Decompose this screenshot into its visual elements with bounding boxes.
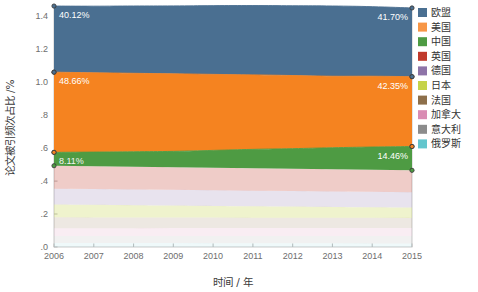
data-point-marker (410, 144, 414, 148)
data-point-marker (52, 70, 56, 74)
area-band-美国 (54, 72, 412, 152)
x-axis-title: 时间 / 年 (213, 276, 253, 288)
area-band-加拿大 (54, 228, 412, 236)
data-point-marker (52, 150, 56, 154)
data-point-marker (410, 168, 414, 172)
legend-label-意大利: 意大利 (431, 123, 461, 135)
legend-label-欧盟: 欧盟 (431, 7, 451, 18)
legend-label-英国: 英国 (431, 50, 451, 62)
data-label: 14.46% (377, 151, 408, 161)
area-band-英国 (54, 166, 412, 193)
area-band-俄罗斯 (54, 243, 412, 247)
x-tick-label: 2008 (124, 251, 144, 261)
y-tick-label: 1.2 (35, 44, 48, 54)
area-band-意大利 (54, 236, 412, 244)
legend-label-中国: 中国 (431, 35, 451, 47)
x-tick-label: 2015 (402, 251, 422, 261)
area-band-法国 (54, 217, 412, 228)
y-tick-label: 1.0 (35, 77, 48, 87)
x-tick-label: 2011 (243, 251, 262, 261)
y-tick-label: 1.4 (35, 11, 48, 21)
legend-swatch-日本 (418, 81, 427, 90)
legend-swatch-意大利 (418, 125, 427, 134)
legend-swatch-英国 (418, 52, 427, 61)
data-label: 8.11% (59, 156, 84, 166)
area-band-欧盟 (54, 6, 412, 77)
y-tick-label: .2 (40, 209, 48, 219)
data-point-marker (410, 6, 414, 10)
stacked-area-chart: .0.2.4.6.81.01.21.4 20062007200820092010… (0, 0, 478, 292)
legend-label-俄罗斯: 俄罗斯 (431, 137, 461, 149)
data-label: 41.70% (377, 12, 408, 22)
data-label: 42.35% (377, 81, 408, 91)
y-tick-label: .6 (40, 143, 48, 153)
legend-label-美国: 美国 (431, 21, 451, 33)
legend-label-加拿大: 加拿大 (431, 108, 461, 120)
legend-swatch-法国 (418, 96, 427, 105)
area-series-group (54, 6, 412, 247)
x-tick-label: 2009 (163, 251, 183, 261)
data-label: 40.12% (59, 10, 90, 20)
legend-swatch-欧盟 (418, 8, 427, 17)
y-axis-title: 论文被引频次占比 /% (4, 80, 16, 177)
x-tick-label: 2013 (322, 251, 342, 261)
y-tick-label: .8 (40, 110, 48, 120)
x-tick-label: 2007 (84, 251, 104, 261)
data-point-marker (52, 164, 56, 168)
x-tick-label: 2006 (44, 251, 64, 261)
data-label: 48.66% (59, 76, 90, 86)
data-point-marker (410, 75, 414, 79)
legend-swatch-美国 (418, 23, 427, 32)
legend-swatch-中国 (418, 37, 427, 46)
x-tick-label: 2010 (203, 251, 223, 261)
legend-label-法国: 法国 (431, 94, 451, 106)
x-tick-label: 2012 (283, 251, 303, 261)
legend-swatch-加拿大 (418, 110, 427, 119)
x-tick-label: 2014 (362, 251, 382, 261)
legend-label-日本: 日本 (431, 79, 451, 91)
legend-swatch-俄罗斯 (418, 139, 427, 148)
legend-label-德国: 德国 (431, 64, 451, 76)
data-point-marker (52, 4, 56, 8)
y-tick-label: .4 (40, 176, 48, 186)
legend-swatch-德国 (418, 66, 427, 75)
